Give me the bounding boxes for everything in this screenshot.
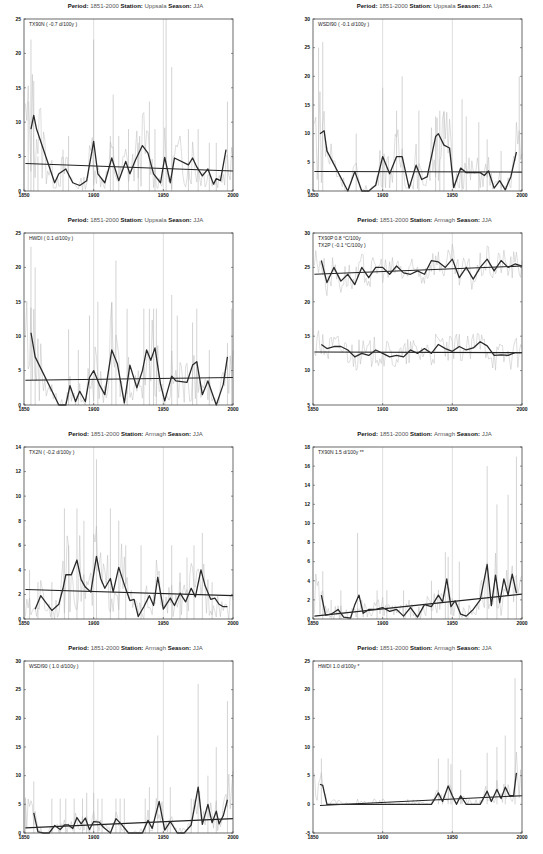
svg-text:25: 25 (304, 658, 310, 664)
svg-text:TX2P ( -0.1 °C/100y ): TX2P ( -0.1 °C/100y ) (318, 242, 366, 248)
svg-text:1950: 1950 (447, 834, 458, 840)
svg-text:12: 12 (15, 468, 21, 474)
plot-area: 185019001950200051015202530TX90P 0.8 °C/… (289, 214, 543, 427)
svg-text:25: 25 (304, 264, 310, 270)
svg-text:WSDI90 ( 1.0 d/100y ): WSDI90 ( 1.0 d/100y ) (29, 663, 79, 669)
svg-text:2000: 2000 (227, 192, 238, 198)
svg-text:1950: 1950 (158, 620, 169, 626)
svg-text:6: 6 (307, 558, 310, 564)
svg-text:0: 0 (18, 830, 21, 836)
svg-text:2000: 2000 (227, 834, 238, 840)
svg-text:20: 20 (15, 50, 21, 56)
svg-text:1900: 1900 (377, 406, 388, 412)
svg-text:16: 16 (304, 463, 310, 469)
plot-area: 18501900195020000510152025TX90N ( -0.7 d… (0, 0, 271, 213)
svg-text:8: 8 (307, 539, 310, 545)
svg-text:0: 0 (18, 188, 21, 194)
svg-text:18: 18 (304, 444, 310, 450)
svg-text:TX90N ( -0.7 d/100y ): TX90N ( -0.7 d/100y ) (29, 21, 77, 27)
svg-text:15: 15 (15, 299, 21, 305)
plot-area: 1850190019502000051015202530WSDI90 ( 1.0… (0, 642, 271, 854)
svg-text:6: 6 (18, 542, 21, 548)
svg-text:5: 5 (307, 159, 310, 165)
svg-text:5: 5 (18, 367, 21, 373)
svg-text:30: 30 (15, 658, 21, 664)
svg-text:2000: 2000 (516, 620, 527, 626)
svg-text:5: 5 (18, 801, 21, 807)
chart-panel-8: Period: 1851-2000 Station: Armagh Season… (289, 642, 543, 854)
svg-text:1950: 1950 (447, 406, 458, 412)
svg-text:4: 4 (18, 567, 21, 573)
svg-text:0: 0 (307, 188, 310, 194)
svg-text:1900: 1900 (88, 834, 99, 840)
svg-text:2000: 2000 (516, 192, 527, 198)
svg-text:12: 12 (304, 501, 310, 507)
svg-text:2000: 2000 (227, 406, 238, 412)
svg-text:1900: 1900 (377, 192, 388, 198)
svg-text:30: 30 (304, 230, 310, 236)
chart-panel-2: Period: 1851-2000 Station: Uppsala Seaso… (289, 0, 543, 213)
svg-text:1950: 1950 (158, 192, 169, 198)
svg-text:10: 10 (304, 130, 310, 136)
svg-text:8: 8 (18, 518, 21, 524)
svg-text:5: 5 (307, 772, 310, 778)
svg-text:1900: 1900 (88, 192, 99, 198)
svg-text:25: 25 (15, 230, 21, 236)
svg-text:1950: 1950 (447, 192, 458, 198)
svg-text:20: 20 (304, 299, 310, 305)
svg-text:10: 10 (15, 493, 21, 499)
svg-text:20: 20 (304, 686, 310, 692)
svg-text:20: 20 (15, 715, 21, 721)
chart-panel-7: Period: 1851-2000 Station: Armagh Season… (0, 642, 271, 854)
svg-text:TX90P 0.8 °C/100y: TX90P 0.8 °C/100y (318, 235, 361, 241)
svg-text:25: 25 (15, 686, 21, 692)
svg-text:2: 2 (18, 591, 21, 597)
svg-text:0: 0 (307, 616, 310, 622)
svg-text:4: 4 (307, 578, 310, 584)
svg-text:WSDI90 ( -0.1 d/100y ): WSDI90 ( -0.1 d/100y ) (318, 21, 369, 27)
svg-text:0: 0 (307, 801, 310, 807)
svg-text:10: 10 (304, 520, 310, 526)
svg-text:TX90N 1.5 d/100y **: TX90N 1.5 d/100y ** (318, 449, 364, 455)
svg-text:1900: 1900 (88, 406, 99, 412)
svg-text:10: 10 (15, 333, 21, 339)
svg-text:15: 15 (304, 715, 310, 721)
chart-panel-5: Period: 1851-2000 Station: Armagh Season… (0, 428, 271, 641)
svg-text:25: 25 (304, 44, 310, 50)
svg-text:10: 10 (15, 772, 21, 778)
svg-text:15: 15 (304, 102, 310, 108)
plot-area: 1850190019502000051015202530WSDI90 ( -0.… (289, 0, 543, 213)
plot-area: 1850190019502000024681012141618TX90N 1.5… (289, 428, 543, 641)
chart-panel-6: Period: 1851-2000 Station: Armagh Season… (289, 428, 543, 641)
svg-text:10: 10 (304, 744, 310, 750)
svg-text:TX2N ( -0.2 d/100y ): TX2N ( -0.2 d/100y ) (29, 449, 75, 455)
svg-text:HWDI ( 0.1 d/100y ): HWDI ( 0.1 d/100y ) (29, 235, 74, 241)
svg-text:1950: 1950 (158, 834, 169, 840)
svg-text:2000: 2000 (516, 406, 527, 412)
svg-text:20: 20 (15, 264, 21, 270)
svg-text:15: 15 (304, 333, 310, 339)
svg-text:10: 10 (304, 367, 310, 373)
chart-panel-3: Period: 1851-2000 Station: Uppsala Seaso… (0, 214, 271, 427)
svg-text:1950: 1950 (447, 620, 458, 626)
svg-text:15: 15 (15, 744, 21, 750)
svg-text:25: 25 (15, 16, 21, 22)
svg-text:10: 10 (15, 119, 21, 125)
svg-text:-5: -5 (306, 830, 311, 836)
svg-text:2000: 2000 (516, 834, 527, 840)
plot-area: 185019001950200002468101214TX2N ( -0.2 d… (0, 428, 271, 641)
svg-text:14: 14 (15, 444, 21, 450)
chart-panel-1: Period: 1851-2000 Station: Uppsala Seaso… (0, 0, 271, 213)
svg-text:1900: 1900 (88, 620, 99, 626)
svg-text:1950: 1950 (158, 406, 169, 412)
svg-text:1900: 1900 (377, 834, 388, 840)
svg-text:2: 2 (307, 597, 310, 603)
svg-text:0: 0 (18, 616, 21, 622)
plot-area: 1850190019502000-50510152025HWDI 1.0 d/1… (289, 642, 543, 854)
plot-area: 18501900195020000510152025HWDI ( 0.1 d/1… (0, 214, 271, 427)
svg-text:HWDI 1.0 d/100y *: HWDI 1.0 d/100y * (318, 663, 359, 669)
chart-panel-4: Period: 1851-2000 Station: Armagh Season… (289, 214, 543, 427)
svg-text:5: 5 (18, 153, 21, 159)
svg-text:1900: 1900 (377, 620, 388, 626)
svg-text:15: 15 (15, 85, 21, 91)
